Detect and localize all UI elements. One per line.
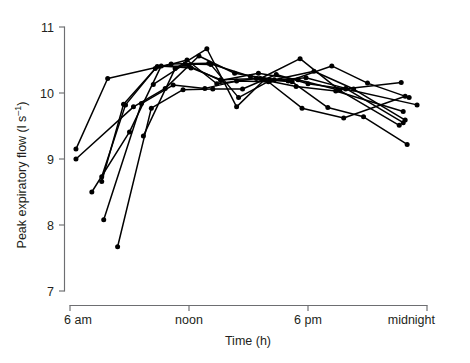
data-point <box>256 71 261 76</box>
data-point <box>234 104 239 109</box>
data-point <box>329 63 334 68</box>
y-axis-ticks <box>59 27 65 291</box>
data-point <box>290 79 295 84</box>
data-point <box>415 102 420 107</box>
data-point <box>240 87 245 92</box>
data-point <box>234 79 239 84</box>
y-tick-label-11: 11 <box>41 21 54 35</box>
data-point <box>306 81 311 86</box>
data-point <box>300 106 305 111</box>
svg-text:Peak expiratory flow (l s–1): Peak expiratory flow (l s–1) <box>13 102 29 249</box>
data-point <box>141 133 146 138</box>
y-tick-label-7: 7 <box>47 285 54 299</box>
data-point <box>171 83 176 88</box>
data-series-layer <box>73 46 419 249</box>
data-point <box>139 101 144 106</box>
peak-expiratory-flow-line-chart: 7891011 6 amnoon6 pmmidnight Peak expira… <box>0 0 470 363</box>
data-point <box>202 86 207 91</box>
data-point <box>99 174 104 179</box>
data-point <box>208 62 213 67</box>
data-point <box>268 78 273 83</box>
data-point <box>254 76 259 81</box>
data-point <box>401 109 406 114</box>
data-point <box>151 82 156 87</box>
data-point <box>403 94 408 99</box>
series-subject-2 <box>73 54 407 162</box>
y-tick-label-8: 8 <box>47 219 54 233</box>
x-axis-title: Time (h) <box>225 334 271 348</box>
data-point <box>361 114 366 119</box>
data-point <box>204 46 209 51</box>
data-point <box>232 71 237 76</box>
y-axis-tick-labels: 7891011 <box>40 21 54 299</box>
data-point <box>89 190 94 195</box>
data-point <box>341 116 346 121</box>
data-point <box>262 77 267 82</box>
data-point <box>325 105 330 110</box>
x-tick-label-noon: noon <box>175 313 203 327</box>
data-point <box>153 66 158 71</box>
data-point <box>183 61 188 66</box>
data-point <box>99 179 104 184</box>
data-point <box>73 147 78 152</box>
data-point <box>123 102 128 107</box>
data-point <box>115 244 120 249</box>
data-point <box>304 75 309 80</box>
x-axis-tick-labels: 6 amnoon6 pmmidnight <box>64 313 436 327</box>
data-point <box>298 56 303 61</box>
series-line-subject-3 <box>92 59 399 192</box>
data-point <box>236 95 241 100</box>
data-point <box>333 89 338 94</box>
data-point <box>101 217 106 222</box>
data-point <box>181 87 186 92</box>
data-point <box>401 120 406 125</box>
data-point <box>131 104 136 109</box>
y-tick-label-9: 9 <box>47 153 54 167</box>
data-point <box>105 76 110 81</box>
chart-figure: 7891011 6 amnoon6 pmmidnight Peak expira… <box>0 0 470 363</box>
data-point <box>149 106 154 111</box>
series-line-subject-4 <box>102 66 401 182</box>
data-point <box>405 142 410 147</box>
y-axis-title: Peak expiratory flow (l s–1) <box>13 102 29 249</box>
y-tick-label-10: 10 <box>40 87 54 101</box>
x-tick-label-midnight: midnight <box>388 313 436 327</box>
x-axis-ticks <box>70 306 427 312</box>
x-tick-label-6-am: 6 am <box>64 313 92 327</box>
data-point <box>399 80 404 85</box>
data-point <box>210 87 215 92</box>
data-point <box>73 157 78 162</box>
data-point <box>274 72 279 77</box>
data-point <box>365 81 370 86</box>
data-point <box>343 86 348 91</box>
x-tick-label-6-pm: 6 pm <box>294 313 322 327</box>
series-subject-6 <box>101 79 407 223</box>
